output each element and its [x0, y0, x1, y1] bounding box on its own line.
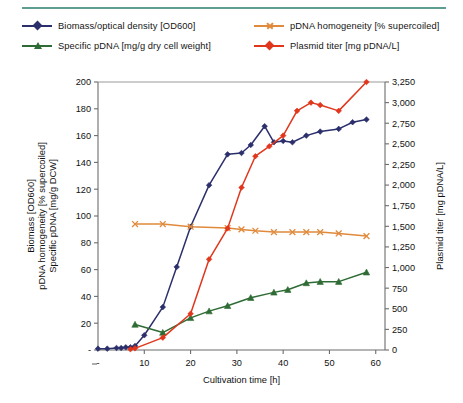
data-point-marker: [174, 264, 180, 270]
data-point-marker: [95, 346, 101, 352]
data-point-marker: [304, 133, 310, 139]
top-divider-rule: [22, 7, 446, 9]
data-point-marker: [317, 129, 323, 135]
y-left-ticklabel: 60: [81, 265, 91, 275]
y-right-ticklabel: 750: [392, 284, 407, 294]
data-point-marker: [350, 119, 356, 125]
y-left-ticklabel: 140: [76, 158, 91, 168]
y-left-ticklabel: 180: [76, 104, 91, 114]
data-point-marker: [317, 102, 323, 108]
y-right-ticklabel: 500: [392, 304, 407, 314]
y-right-ticklabel: 250: [392, 325, 407, 335]
series-3: [132, 221, 369, 239]
x-ticklabel: 10: [139, 358, 149, 368]
chart-legend: Biomass/optical density [OD600] Specific…: [22, 18, 452, 60]
y-right-ticklabel: 1,500: [392, 222, 415, 232]
legend-marker-x-icon: [254, 20, 284, 31]
y-axis-title-line: Specific pDNA [mg/g DCW]: [47, 159, 58, 273]
legend-item-specific-pdna: Specific pDNA [mg/g dry cell weight]: [22, 40, 211, 51]
y-right-ticklabel: 1,000: [392, 263, 415, 273]
y-right-ticklabel: 0: [392, 345, 397, 355]
series-path: [135, 272, 366, 332]
x-ticklabel: 60: [371, 358, 381, 368]
data-point-marker: [363, 269, 369, 275]
legend-label-specific-pdna: Specific pDNA [mg/g dry cell weight]: [58, 41, 211, 51]
x-ticklabel: 50: [324, 358, 334, 368]
x-axis-title: Cultivation time [h]: [203, 374, 280, 385]
y-right-ticklabel: 2,750: [392, 119, 415, 129]
series-path: [130, 82, 366, 349]
y2-axis-title: Plasmid titer [mg pDNA/L]: [434, 162, 445, 270]
legend-item-homogeneity: pDNA homogeneity [% supercoiled]: [254, 20, 439, 31]
y-left-ticklabel: 80: [81, 238, 91, 248]
y-right-ticklabel: 3,250: [392, 77, 415, 87]
legend-marker-diamond-icon: [254, 40, 284, 51]
data-point-marker: [104, 346, 110, 352]
x-ticklabel: -: [96, 358, 99, 368]
y-left-ticklabel: 200: [76, 77, 91, 87]
plot-area: -2040608010012014016018020002505007501,0…: [0, 60, 463, 403]
legend-marker-diamond-icon: [22, 20, 52, 31]
y-left-ticklabel: 160: [76, 131, 91, 141]
y-right-ticklabel: 1,250: [392, 242, 415, 252]
legend-item-plasmid-titer: Plasmid titer [mg pDNA/L]: [254, 40, 399, 51]
y-left-ticklabel: 120: [76, 185, 91, 195]
x-ticklabel: 30: [232, 358, 242, 368]
series-path: [135, 224, 366, 236]
series-4: [128, 79, 370, 352]
y-right-ticklabel: 2,250: [392, 160, 415, 170]
series-1: [95, 117, 369, 352]
legend-label-plasmid-titer: Plasmid titer [mg pDNA/L]: [290, 41, 399, 51]
legend-label-biomass: Biomass/optical density [OD600]: [58, 21, 195, 31]
line-chart: -2040608010012014016018020002505007501,0…: [0, 60, 463, 403]
x-ticklabel: 40: [278, 358, 288, 368]
legend-item-biomass: Biomass/optical density [OD600]: [22, 20, 195, 31]
y-right-ticklabel: 3,000: [392, 98, 415, 108]
legend-label-homogeneity: pDNA homogeneity [% supercoiled]: [290, 21, 439, 31]
series-2: [132, 269, 370, 335]
x-ticklabel: 20: [185, 358, 195, 368]
y-left-ticklabel: 100: [76, 211, 91, 221]
data-point-marker: [132, 321, 138, 327]
y-axis-title-line: pDNA homogeneity [% supercoiled]: [36, 142, 47, 289]
series-path: [98, 120, 366, 349]
data-point-marker: [336, 126, 342, 132]
data-point-marker: [239, 185, 245, 191]
data-point-marker: [280, 138, 286, 144]
figure-root: Biomass/optical density [OD600] Specific…: [0, 0, 463, 403]
y-right-ticklabel: 2,500: [392, 139, 415, 149]
y-right-ticklabel: 2,000: [392, 180, 415, 190]
y-left-ticklabel: 20: [81, 319, 91, 329]
y-axis-title-line: Biomass [OD600]: [25, 179, 36, 252]
legend-marker-triangle-icon: [22, 40, 52, 51]
data-point-marker: [290, 140, 296, 146]
y-left-ticklabel: -: [88, 345, 91, 355]
data-point-marker: [364, 117, 370, 123]
y-left-ticklabel: 40: [81, 292, 91, 302]
y-right-ticklabel: 1,750: [392, 201, 415, 211]
